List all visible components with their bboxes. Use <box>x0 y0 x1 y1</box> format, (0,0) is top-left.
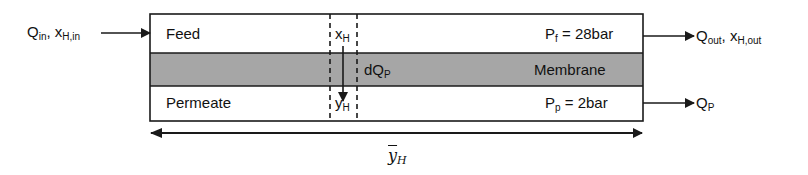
permeate-fraction-label: yH <box>335 95 350 113</box>
permeate-outlet-label: QP <box>696 95 714 113</box>
flux-sub: P <box>384 69 391 80</box>
permeate-pressure-symbol: P <box>545 94 555 111</box>
permeate-flow-symbol: Q <box>696 94 708 111</box>
permeate-pressure-sub: p <box>555 102 561 113</box>
feed-pressure: Pf = 28bar <box>545 26 613 44</box>
feed-fraction-symbol: x <box>335 25 343 42</box>
inlet-fraction-sub: H,in <box>62 31 80 42</box>
permeate-fraction-sub: H <box>343 102 350 113</box>
flux-symbol: dQ <box>364 61 384 78</box>
retentate-flow-symbol: Q <box>696 27 708 44</box>
average-sub: H <box>397 154 407 167</box>
inlet-label: Qin, xH,in <box>27 24 80 42</box>
permeate-pressure-value: = 2bar <box>565 94 608 111</box>
retentate-outlet-label: Qout, xH,out <box>696 28 761 46</box>
feed-fraction-sub: H <box>343 33 350 44</box>
average-permeate-fraction-label: yH <box>388 146 407 167</box>
inlet-flow-sub: in <box>39 31 47 42</box>
membrane-label: Membrane <box>534 62 606 77</box>
permeate-flow-sub: P <box>708 102 715 113</box>
permeate-pressure: Pp = 2bar <box>545 95 608 113</box>
feed-pressure-value: = 28bar <box>562 25 613 42</box>
permeation-flux-label: dQP <box>364 62 391 80</box>
feed-label: Feed <box>166 26 200 41</box>
feed-fraction-label: xH <box>335 26 350 44</box>
inlet-flow-symbol: Q <box>27 23 39 40</box>
retentate-flow-sub: out <box>708 35 722 46</box>
permeate-fraction-symbol: y <box>335 94 343 111</box>
feed-pressure-symbol: P <box>545 25 555 42</box>
feed-pressure-sub: f <box>555 33 558 44</box>
permeate-label: Permeate <box>166 95 231 110</box>
average-symbol: y <box>388 146 397 165</box>
retentate-fraction-sub: H,out <box>737 35 761 46</box>
